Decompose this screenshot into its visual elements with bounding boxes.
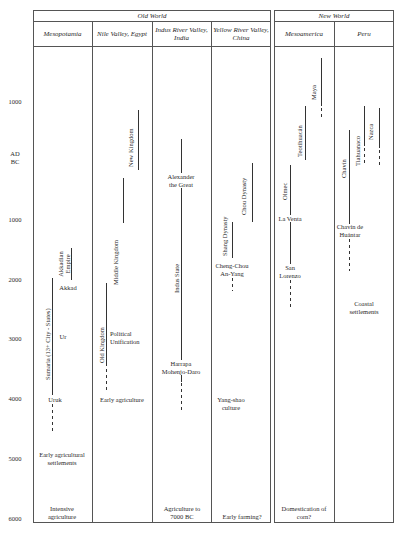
sumaria-bar bbox=[52, 278, 53, 395]
yangshao-label: Yang-shao culture bbox=[213, 396, 249, 411]
tick-1000-bc: 1000 bbox=[0, 216, 30, 223]
old-kingdom-bar bbox=[106, 283, 107, 363]
divider bbox=[211, 21, 212, 523]
chavin-huantar-label: Chavín de Huántar bbox=[330, 223, 370, 238]
shang-bar bbox=[232, 222, 233, 258]
divider bbox=[92, 21, 93, 523]
alexander-label: Alexander the Great bbox=[163, 173, 199, 188]
akkad-label: Akkad bbox=[59, 284, 76, 292]
harrapa-label: Harrapa Mohenjo-Daro bbox=[159, 360, 203, 375]
chou-label: Chou Dynasty bbox=[240, 178, 247, 215]
divider bbox=[152, 21, 153, 523]
tick-bc: BC bbox=[0, 158, 30, 165]
tick-3000: 3000 bbox=[0, 335, 30, 342]
akkadian-bar bbox=[71, 248, 72, 280]
agri-7000-label: Agriculture to 7000 BC bbox=[160, 505, 204, 520]
tiahuanaco-label: Tiahuanaco bbox=[354, 136, 361, 166]
ur-label: Ur bbox=[60, 333, 67, 341]
cheng-chou-label: Cheng-Chou An-Yang bbox=[214, 262, 250, 277]
teotihuacan-label: Teotihuacán bbox=[296, 125, 303, 157]
new-kingdom-bar bbox=[138, 110, 139, 170]
maya-dashed-bar bbox=[321, 108, 322, 120]
early-farming-label: Early farming? bbox=[222, 513, 261, 521]
tick-6000: 6000 bbox=[0, 515, 30, 522]
nazca-bar bbox=[379, 108, 380, 148]
middle-kingdom-bar bbox=[123, 178, 124, 223]
early-settlements-label: Early agricultural settlements bbox=[33, 451, 91, 466]
uruk-label: Uruk bbox=[48, 396, 61, 404]
new-kingdom-label: New Kingdom bbox=[127, 129, 134, 167]
old-kingdom-label: Old Kingdom bbox=[98, 327, 105, 363]
san-lorenzo-label: San Lorenzo bbox=[276, 264, 304, 279]
col-header-peru: Peru bbox=[334, 21, 394, 46]
tick-1000-ad: 1000 bbox=[0, 98, 30, 105]
shang-label: Shang Dynasty bbox=[221, 216, 228, 256]
olmec-label: Olmec bbox=[281, 183, 288, 200]
col-header-nile: Nile Valley, Egypt bbox=[92, 21, 152, 46]
tiahuanaco-dashed-bar bbox=[364, 148, 365, 166]
chou-bar bbox=[252, 163, 253, 222]
tick-4000: 4000 bbox=[0, 395, 30, 402]
coastal-label: Coastal settlements bbox=[344, 300, 384, 315]
tiahuanaco-bar bbox=[364, 106, 365, 146]
akkadian-label: Akkadian Empire bbox=[57, 246, 71, 282]
indus-state-label: Indus State bbox=[173, 264, 180, 293]
col-header-indus: Indus River Valley, India bbox=[152, 21, 211, 46]
teotihuacan-bar bbox=[305, 106, 306, 160]
intensive-label: Intensive agriculture bbox=[42, 505, 82, 520]
old-world-header: Old World bbox=[33, 10, 271, 21]
sumaria-label: Sumaria (13+ City - States) bbox=[44, 308, 51, 380]
nazca-label: Nazca bbox=[367, 124, 374, 140]
cheng-chou-dashed-bar bbox=[232, 278, 233, 291]
col-header-yellow: Yellow River Valley, China bbox=[211, 21, 271, 46]
uruk-dashed-bar bbox=[52, 404, 53, 432]
political-unification-label: Political Unification bbox=[110, 330, 144, 345]
nazca-dashed-bar bbox=[379, 150, 380, 168]
early-agriculture-label: Early agriculture bbox=[100, 396, 144, 404]
col-header-mesoamerica: Mesoamerica bbox=[274, 21, 334, 46]
old-kingdom-dashed-bar bbox=[106, 363, 107, 391]
chavin-label: Chavín bbox=[340, 159, 347, 178]
tick-ad: AD bbox=[0, 150, 30, 157]
maya-bar bbox=[321, 58, 322, 106]
domestication-label: Domestication of corn? bbox=[277, 505, 331, 520]
middle-kingdom-label: Middle Kingdom bbox=[112, 240, 119, 285]
chavin-bar bbox=[349, 130, 350, 224]
col-header-mesopotamia: Mesopotamia bbox=[33, 21, 92, 46]
chavin-huantar-dashed-bar bbox=[349, 239, 350, 271]
divider bbox=[334, 21, 335, 523]
tick-5000: 5000 bbox=[0, 455, 30, 462]
olmec-lower-bar bbox=[290, 222, 291, 264]
olmec-bar bbox=[290, 165, 291, 222]
san-lorenzo-dashed-bar bbox=[290, 280, 291, 308]
maya-label: Maya bbox=[310, 85, 317, 100]
new-world-header: New World bbox=[274, 10, 394, 21]
tick-2000: 2000 bbox=[0, 276, 30, 283]
harrapa-dashed-bar bbox=[181, 377, 182, 413]
